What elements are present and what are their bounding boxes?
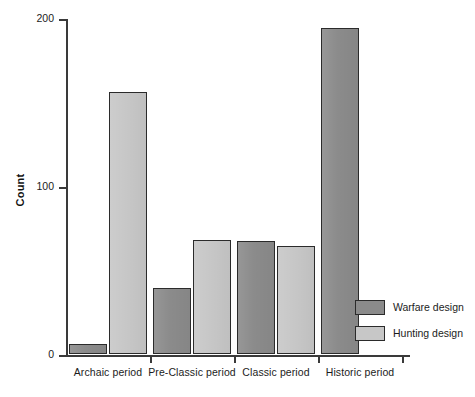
y-axis-title: Count (8, 150, 32, 230)
legend-item: Hunting design (355, 323, 467, 343)
x-axis-category-label: Classic period (242, 366, 309, 378)
bar-sheen (322, 29, 358, 353)
y-axis-title-label: Count (14, 174, 26, 207)
legend-label: Hunting design (393, 327, 463, 339)
bar-warfare (237, 241, 275, 354)
bar-chart: Count 0100200 Archaic periodPre-Classic … (0, 0, 475, 397)
y-axis-tick-mark: 0 (59, 355, 67, 357)
bar-sheen (70, 345, 106, 353)
x-axis-category-label: Archaic period (74, 366, 143, 378)
bar-sheen (278, 247, 314, 353)
x-axis-category-label: Historic period (326, 366, 395, 378)
x-axis-tick-mark (150, 355, 152, 363)
x-axis-tick-mark (318, 355, 320, 363)
y-axis-tick-label: 0 (48, 348, 54, 360)
legend-item: Warfare design (355, 297, 467, 317)
bar-hunting (193, 240, 231, 354)
legend-label: Warfare design (393, 301, 464, 313)
y-axis-tick-label: 200 (36, 12, 54, 24)
bar-hunting (277, 246, 315, 354)
x-axis-category-label: Pre-Classic period (148, 366, 236, 378)
bar-sheen (238, 242, 274, 353)
bar-sheen (110, 93, 146, 353)
bar-warfare (153, 288, 191, 354)
bar-warfare (321, 28, 359, 354)
legend: Warfare designHunting design (355, 297, 467, 349)
bar-sheen (154, 289, 190, 353)
bar-hunting (109, 92, 147, 354)
x-axis-tick-mark (234, 355, 236, 363)
y-axis-tick-label: 100 (36, 180, 54, 192)
y-axis-tick-mark: 200 (59, 19, 67, 21)
y-axis-tick-mark: 100 (59, 187, 67, 189)
bar-sheen (194, 241, 230, 353)
bar-warfare (69, 344, 107, 354)
x-axis-tick-mark (402, 355, 404, 363)
legend-swatch (355, 326, 385, 341)
legend-swatch (355, 300, 385, 315)
